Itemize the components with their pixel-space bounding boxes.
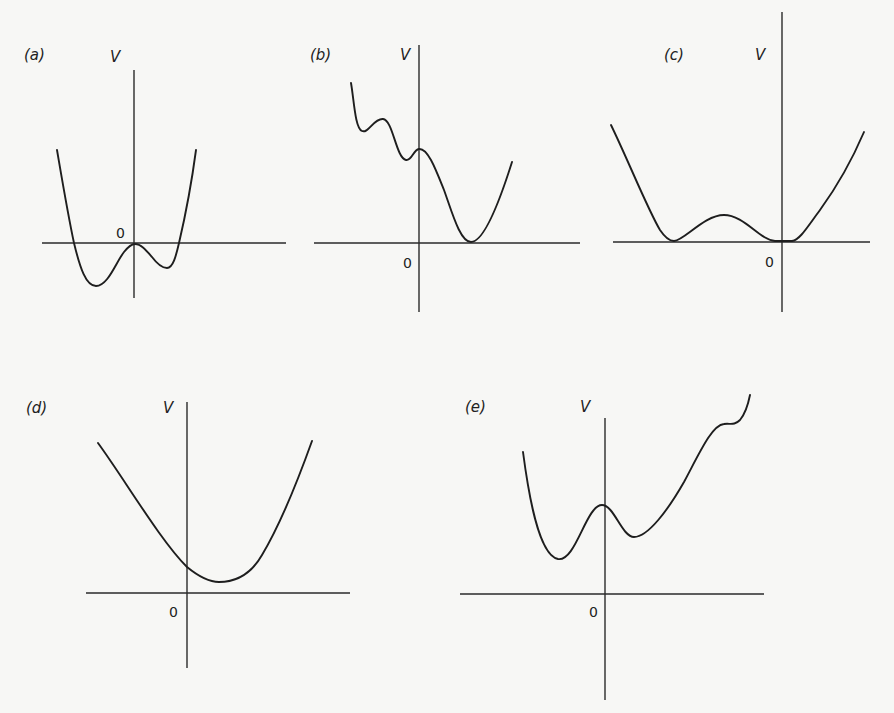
panel-e: (e) V 0 bbox=[460, 395, 764, 700]
panel-b-y-axis-label: V bbox=[400, 46, 412, 64]
panel-d-curve bbox=[98, 441, 312, 582]
panel-c-curve bbox=[611, 125, 864, 241]
panel-c-y-axis-label: V bbox=[755, 46, 767, 64]
panel-a-curve bbox=[57, 150, 196, 286]
panel-d-origin-label: 0 bbox=[169, 604, 178, 620]
panel-c-label: (c) bbox=[664, 46, 684, 64]
panel-a-origin-label: 0 bbox=[116, 225, 125, 241]
panel-a-y-axis-label: V bbox=[110, 48, 122, 66]
panel-a: (a) V 0 bbox=[24, 46, 286, 298]
panel-e-origin-label: 0 bbox=[589, 604, 598, 620]
panel-b-label: (b) bbox=[310, 46, 331, 64]
panel-e-y-axis-label: V bbox=[580, 398, 592, 416]
panel-c: (c) V 0 bbox=[611, 12, 870, 312]
panel-b-origin-label: 0 bbox=[403, 255, 412, 271]
panel-a-label: (a) bbox=[24, 46, 45, 64]
panel-c-origin-label: 0 bbox=[765, 254, 774, 270]
figure-svg: (a) V 0 (b) V 0 (c) V 0 (d) V bbox=[0, 0, 894, 713]
panel-d: (d) V 0 bbox=[26, 399, 350, 668]
panel-b: (b) V 0 bbox=[310, 45, 580, 312]
figure-canvas: (a) V 0 (b) V 0 (c) V 0 (d) V bbox=[0, 0, 894, 713]
panel-e-label: (e) bbox=[465, 398, 486, 416]
panel-e-curve bbox=[523, 395, 750, 559]
panel-b-curve bbox=[351, 83, 512, 242]
panel-d-y-axis-label: V bbox=[163, 399, 175, 417]
panel-d-label: (d) bbox=[26, 399, 47, 417]
